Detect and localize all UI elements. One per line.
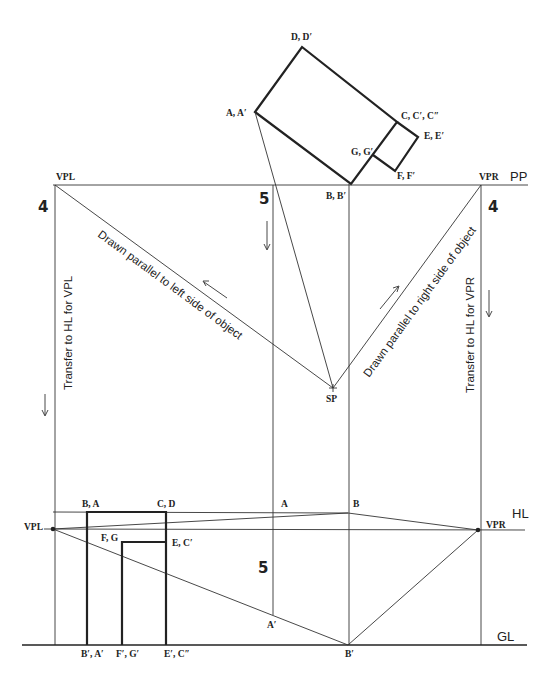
b-to-vpr-line <box>348 513 478 530</box>
note-left-parallel: Drawn parallel to left side of object <box>96 228 246 342</box>
label-vpr-hl: VPR <box>486 520 506 530</box>
label-b-top: B <box>353 499 360 509</box>
note-right-transfer: Transfer to HL for VPR <box>464 277 476 393</box>
up-right-arrow-icon <box>380 286 399 309</box>
bprime-to-vpr-line <box>348 530 478 645</box>
vpl-construction-line <box>55 185 333 388</box>
down-arrow-icon <box>264 221 270 250</box>
step-5-perspective: 5 <box>258 559 268 577</box>
plan-view: D, D′ A, A′ C, C′, C″ E, E′ G, G′ F, F′ … <box>38 32 528 645</box>
label-cd: C, D <box>157 499 176 509</box>
down-arrow-icon <box>42 394 48 416</box>
note-left-transfer: Transfer to HL for VPL <box>62 275 74 390</box>
label-vpl-hl: VPL <box>24 522 43 532</box>
plan-main-block <box>255 47 397 184</box>
label-vpl-plan: VPL <box>56 172 75 182</box>
vpl-to-bprime-line <box>53 529 348 645</box>
label-pp: PP <box>510 169 527 184</box>
label-a-prime: A′ <box>267 620 277 630</box>
label-vpr-plan: VPR <box>479 172 499 182</box>
label-bp-ap: B′, A′ <box>81 649 104 659</box>
horizon-line <box>44 529 525 530</box>
label-g: G, G′ <box>351 147 374 157</box>
label-ba: B, A <box>82 499 100 509</box>
label-d: D, D′ <box>291 32 312 42</box>
vpl-dot <box>51 527 56 532</box>
label-ep-cpp: E′, C″ <box>164 649 190 659</box>
label-c: C, C′, C″ <box>401 111 439 121</box>
elevation-small-block <box>122 542 166 645</box>
vpr-dot <box>476 528 481 533</box>
note-right-parallel: Drawn parallel to right side of object <box>361 224 479 380</box>
vpr-construction-line <box>333 185 481 388</box>
label-a: A, A′ <box>226 108 247 118</box>
perspective-view: B, A C, D F, G E, C′ VPL VPR HL GL A B A… <box>22 499 529 659</box>
label-f: F, F′ <box>397 171 415 181</box>
label-hl: HL <box>512 506 529 521</box>
label-b: B, B′ <box>326 191 346 201</box>
label-b-prime: B′ <box>345 649 354 659</box>
label-fp-gp: F′, G′ <box>116 649 140 659</box>
step-4-left: 4 <box>38 198 48 216</box>
perspective-construction-diagram: D, D′ A, A′ C, C′, C″ E, E′ G, G′ F, F′ … <box>0 0 553 688</box>
label-gl: GL <box>497 629 514 644</box>
down-arrow-icon <box>486 290 492 317</box>
label-e: E, E′ <box>424 131 444 141</box>
vpl-to-b-line <box>53 513 348 529</box>
label-a-top: A <box>281 499 288 509</box>
elevation-main-block <box>87 512 166 645</box>
label-sp: SP <box>326 394 337 404</box>
label-ec: E, C′ <box>172 538 193 548</box>
step-4-right: 4 <box>488 198 498 216</box>
label-fg: F, G <box>101 533 119 543</box>
step-5-plan: 5 <box>259 190 269 208</box>
